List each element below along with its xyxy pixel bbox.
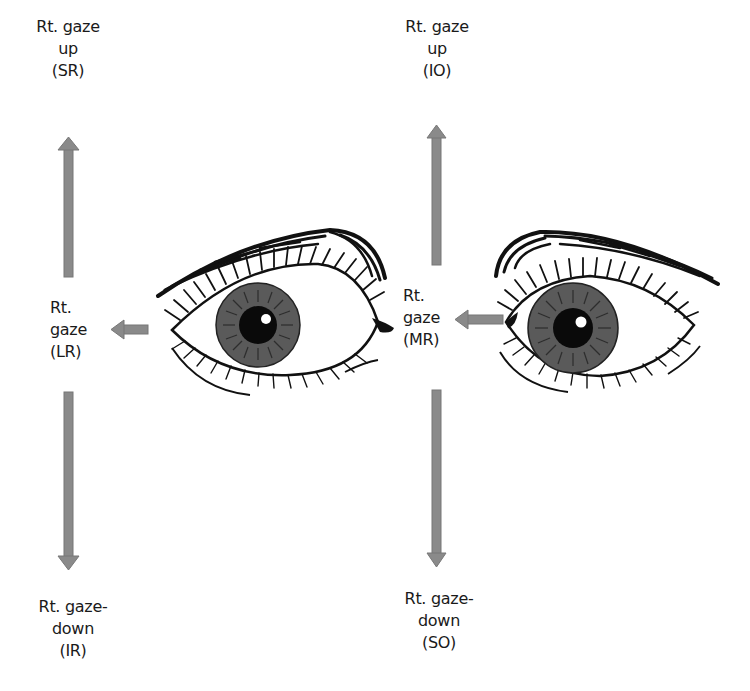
- label-line: (SR): [18, 60, 118, 82]
- label-line: Rt.: [50, 297, 90, 319]
- arrow-up-left-sr: [58, 137, 79, 277]
- right-pupil: [553, 308, 593, 348]
- arrow-down-left-ir: [58, 392, 79, 570]
- label-line: Rt.: [403, 285, 453, 307]
- label-line: (MR): [403, 329, 453, 351]
- left-pupil: [239, 306, 277, 344]
- left-eye-illustration: [158, 230, 394, 395]
- label-line: gaze: [403, 307, 453, 329]
- label-line: (LR): [50, 341, 90, 363]
- label-gaze-up-io: Rt. gaze up (IO): [387, 16, 487, 82]
- label-line: down: [384, 610, 494, 632]
- label-gaze-down-so: Rt. gaze- down (SO): [384, 588, 494, 654]
- label-line: (SO): [384, 632, 494, 654]
- label-line: Rt. gaze: [18, 16, 118, 38]
- right-highlight: [576, 317, 587, 328]
- right-eye-illustration: [496, 232, 718, 392]
- label-gaze-medial-mr: Rt. gaze (MR): [403, 285, 453, 351]
- label-gaze-down-ir: Rt. gaze- down (IR): [18, 596, 128, 662]
- left-highlight: [261, 314, 271, 324]
- eye-gaze-diagram: [0, 0, 750, 691]
- label-line: Rt. gaze-: [18, 596, 128, 618]
- label-line: down: [18, 618, 128, 640]
- arrow-left-lr: [111, 320, 148, 339]
- label-line: Rt. gaze-: [384, 588, 494, 610]
- label-line: (IR): [18, 640, 128, 662]
- label-gaze-up-sr: Rt. gaze up (SR): [18, 16, 118, 82]
- label-line: up: [18, 38, 118, 60]
- label-line: (IO): [387, 60, 487, 82]
- label-line: up: [387, 38, 487, 60]
- label-gaze-lateral-lr: Rt. gaze (LR): [50, 297, 90, 363]
- label-line: gaze: [50, 319, 90, 341]
- arrow-left-mr: [455, 310, 503, 329]
- label-line: Rt. gaze: [387, 16, 487, 38]
- arrow-up-right-io: [427, 125, 446, 265]
- arrow-down-right-so: [427, 390, 446, 567]
